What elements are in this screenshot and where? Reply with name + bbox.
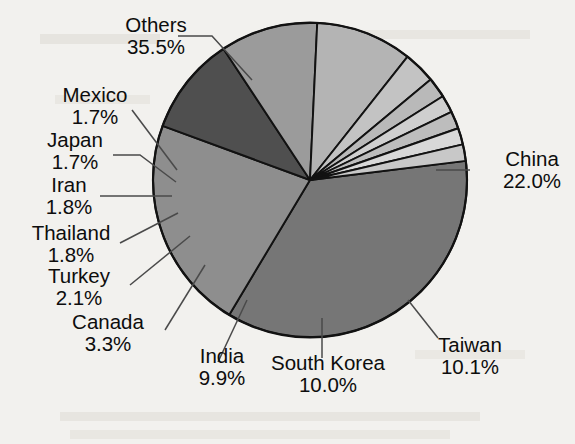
slice-label-thailand-pct: 1.8%	[10, 244, 132, 266]
slice-label-mexico-pct: 1.7%	[36, 106, 154, 128]
slice-label-others-pct: 35.5%	[96, 36, 216, 58]
slice-label-japan-pct: 1.7%	[22, 151, 128, 173]
slice-label-taiwan-name: Taiwan	[418, 334, 522, 356]
slice-label-india-pct: 9.9%	[178, 367, 266, 389]
slice-label-thailand-name: Thailand	[10, 222, 132, 244]
slice-label-japan-name: Japan	[22, 129, 128, 151]
slice-label-china: China 22.0%	[486, 148, 575, 192]
slice-label-mexico: Mexico 1.7%	[36, 84, 154, 128]
slice-label-turkey: Turkey 2.1%	[24, 265, 134, 309]
chart-canvas: Others 35.5% Mexico 1.7% Japan 1.7% Iran…	[0, 0, 575, 444]
slice-label-turkey-pct: 2.1%	[24, 287, 134, 309]
slice-label-others-name: Others	[96, 14, 216, 36]
slice-label-others: Others 35.5%	[96, 14, 216, 58]
leader-line-taiwan	[408, 300, 438, 338]
slice-label-south-korea-pct: 10.0%	[258, 374, 398, 396]
slice-label-india: India 9.9%	[178, 345, 266, 389]
pie-slices	[153, 23, 467, 337]
slice-label-turkey-name: Turkey	[24, 265, 134, 287]
slice-label-taiwan: Taiwan 10.1%	[418, 334, 522, 378]
slice-label-iran-name: Iran	[22, 174, 116, 196]
slice-label-japan: Japan 1.7%	[22, 129, 128, 173]
slice-label-india-name: India	[178, 345, 266, 367]
slice-label-iran-pct: 1.8%	[22, 196, 116, 218]
slice-label-china-pct: 22.0%	[486, 170, 575, 192]
slice-label-canada-pct: 3.3%	[48, 333, 168, 355]
slice-label-canada: Canada 3.3%	[48, 311, 168, 355]
slice-label-south-korea: South Korea 10.0%	[258, 352, 398, 396]
slice-label-iran: Iran 1.8%	[22, 174, 116, 218]
slice-label-china-name: China	[486, 148, 575, 170]
slice-label-mexico-name: Mexico	[36, 84, 154, 106]
slice-label-canada-name: Canada	[48, 311, 168, 333]
slice-label-south-korea-name: South Korea	[258, 352, 398, 374]
slice-label-thailand: Thailand 1.8%	[10, 222, 132, 266]
slice-label-taiwan-pct: 10.1%	[418, 356, 522, 378]
